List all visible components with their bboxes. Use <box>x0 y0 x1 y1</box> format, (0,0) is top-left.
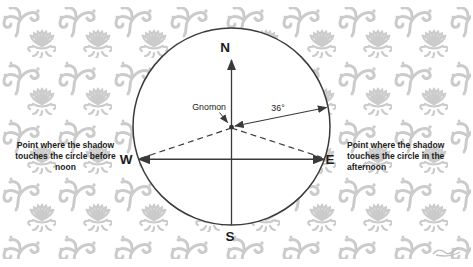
afternoon-annotation: Point where the shadow touches the circl… <box>347 140 457 173</box>
compass-north-label: N <box>220 40 230 55</box>
gnomon-label: Gnomon <box>192 102 226 112</box>
before-noon-annotation: Point where the shadow touches the circl… <box>13 140 118 173</box>
gnomon-dot <box>229 125 234 130</box>
compass-south-label: S <box>225 229 234 244</box>
angle-label: 36° <box>271 103 284 113</box>
diagram-canvas: N S W E Gnomon 36° <box>0 0 473 267</box>
compass-west-label: W <box>120 152 133 167</box>
compass-east-label: E <box>325 152 334 167</box>
shadow-circle-diagram: N S W E Gnomon 36° Point where the shado… <box>0 0 473 267</box>
